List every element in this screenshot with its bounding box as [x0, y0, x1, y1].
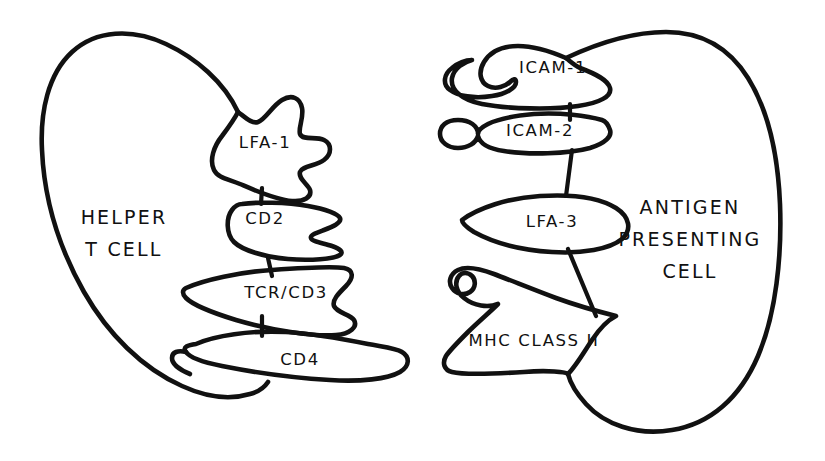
receptor-lfa1[interactable]: LFA-1	[212, 97, 330, 201]
receptor-label-tcrcd3: TCR/CD3	[243, 283, 328, 302]
receptor-label-lfa3: LFA-3	[526, 212, 579, 231]
receptor-icam2[interactable]: ICAM-2	[440, 113, 610, 153]
svg-text:ANTIGEN: ANTIGEN	[640, 196, 741, 218]
receptor-label-mhc-class-2: MHC CLASS II	[469, 331, 600, 350]
receptor-label-cd4: CD4	[280, 350, 320, 369]
svg-text:PRESENTING: PRESENTING	[618, 228, 761, 250]
svg-text:HELPER: HELPER	[81, 206, 168, 228]
helper-t-cell-label: HELPER T CELL	[81, 206, 168, 260]
receptor-label-cd2: CD2	[245, 209, 285, 228]
receptor-lfa3[interactable]: LFA-3	[462, 196, 628, 253]
receptor-cd2[interactable]: CD2	[228, 203, 342, 260]
stalk-icam2-lfa3	[566, 150, 572, 196]
antigen-presenting-cell-label: ANTIGEN PRESENTING CELL	[618, 196, 761, 282]
receptor-tcrcd3[interactable]: TCR/CD3	[183, 267, 355, 335]
svg-text:T CELL: T CELL	[84, 238, 162, 260]
receptor-cd4[interactable]: CD4	[172, 332, 408, 381]
receptor-icam1[interactable]: ICAM-1	[445, 46, 610, 108]
diagram-canvas: LFA-1 CD2 TCR/CD3 CD4 HELPER T CELL	[0, 0, 825, 461]
receptor-label-icam1: ICAM-1	[519, 58, 587, 77]
receptor-label-icam2: ICAM-2	[506, 121, 574, 140]
receptor-label-lfa1: LFA-1	[239, 133, 292, 152]
stalk-cd2-tcrcd3	[268, 258, 272, 276]
receptor-mhc-class-2[interactable]: MHC CLASS II	[444, 268, 616, 374]
svg-text:CELL: CELL	[662, 260, 717, 282]
